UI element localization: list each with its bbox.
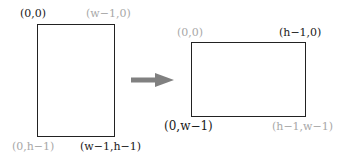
source-rectangle <box>37 24 115 137</box>
target-bottom-left-label: (0,w−1) <box>164 120 213 132</box>
target-rectangle <box>191 42 306 117</box>
target-top-left-label: (0,0) <box>177 27 203 39</box>
source-top-left-label: (0,0) <box>20 8 46 20</box>
target-top-right-label: (h−1,0) <box>279 27 321 39</box>
source-bottom-right-label: (w−1,h−1) <box>80 141 141 153</box>
source-bottom-left-label: (0,h−1) <box>12 141 54 153</box>
source-top-right-label: (w−1,0) <box>86 8 131 20</box>
right-arrow-icon <box>131 73 175 87</box>
target-bottom-right-label: (h−1,w−1) <box>272 121 333 133</box>
